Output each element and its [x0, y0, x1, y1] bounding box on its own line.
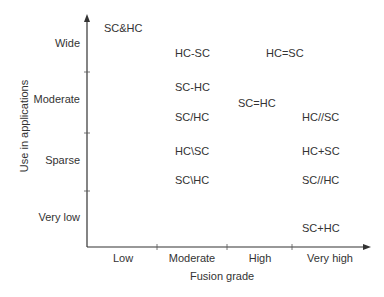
point-label: SC/HC: [175, 111, 209, 123]
point-label: SC&HC: [104, 22, 143, 34]
point-label: HC+SC: [302, 145, 340, 157]
point-label: HC=SC: [266, 47, 304, 59]
y-tick-very-low: Very low: [0, 211, 80, 223]
y-tick-sparse: Sparse: [0, 154, 80, 166]
point-label: HC\SC: [175, 145, 209, 157]
point-label: SC\HC: [175, 174, 209, 186]
y-tick-wide: Wide: [0, 37, 80, 49]
point-label: HC-SC: [175, 47, 210, 59]
point-label: SC+HC: [302, 222, 340, 234]
x-tick-low: Low: [83, 252, 163, 264]
y-tick-moderate: Moderate: [0, 93, 80, 105]
x-tick-very-high: Very high: [290, 252, 370, 264]
point-label: SC=HC: [238, 97, 276, 109]
point-label: SC//HC: [302, 174, 339, 186]
y-axis-title: Use in applications: [18, 56, 30, 196]
x-axis-title: Fusion grade: [190, 270, 254, 282]
point-label: HC//SC: [302, 111, 339, 123]
point-label: SC-HC: [175, 81, 210, 93]
x-tick-high: High: [220, 252, 300, 264]
